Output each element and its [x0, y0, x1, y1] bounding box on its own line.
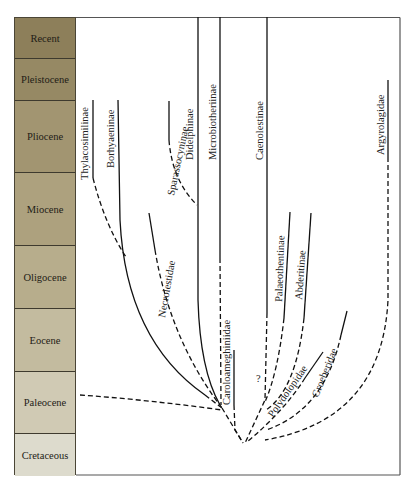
uncertain-marker: ?	[256, 373, 261, 384]
label-polydolopidae: Polydolopidae	[266, 363, 310, 419]
label-argyrolagidae: Argyrolagidae	[375, 94, 386, 155]
label-microbiotheriinae: Microbiotheriinae	[207, 84, 218, 160]
label-groeberidae: Groeberidae	[310, 346, 340, 399]
label-palaeothentinae: Palaeothentinae	[273, 235, 286, 302]
branch-caroloameghiniidae	[234, 350, 243, 443]
branch-basal-curve	[80, 395, 222, 410]
phylogenetic-tree: Thylacosimilinae Borhyaeninae Sparassocy…	[0, 0, 415, 488]
label-thylacosimilinae: Thylacosimilinae	[79, 107, 90, 180]
diagram-frame	[76, 18, 400, 476]
label-borhyaeninae: Borhyaeninae	[105, 109, 116, 168]
branch-didelphinae	[198, 17, 220, 405]
label-caroloameghiniidae: Caroloameghiniidae	[221, 320, 232, 405]
label-necrolestidae: Necrolestidae	[156, 259, 177, 318]
label-caenolestinae: Caenolestinae	[254, 101, 265, 160]
label-didelphinae: Didelphinae	[184, 108, 195, 160]
